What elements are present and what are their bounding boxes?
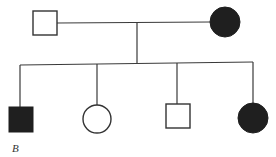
mother-affected-female-circle [210,7,240,37]
child-1-affected-male-square [9,107,33,132]
child-4-affected-female-circle [238,103,268,133]
panel-label: B [12,142,19,154]
mating-line [57,22,210,23]
child-2-unaffected-female-circle [83,105,111,133]
pedigree-diagram: B [0,0,276,157]
father-unaffected-male-square [33,11,57,35]
child-3-unaffected-male-square [166,104,190,128]
